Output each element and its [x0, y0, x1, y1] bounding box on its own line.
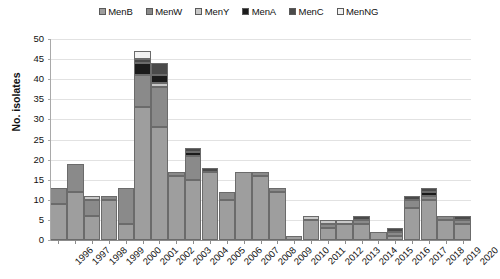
bar-segment-meny[interactable] [84, 196, 101, 200]
bar-segment-menb[interactable] [185, 180, 202, 240]
bar-group[interactable] [404, 39, 421, 240]
bar-segment-menw[interactable] [252, 172, 269, 176]
x-tick-mark [193, 241, 194, 244]
bar-segment-menw[interactable] [67, 164, 84, 192]
bar-group[interactable] [101, 39, 118, 240]
x-tick-label: 2020 [478, 245, 500, 267]
bar-segment-menc[interactable] [134, 59, 151, 63]
bar-segment-menc[interactable] [454, 216, 471, 220]
bar-group[interactable] [134, 39, 151, 240]
bar-segment-menc[interactable] [202, 168, 219, 172]
bar-segment-menb[interactable] [437, 220, 454, 240]
bar-segment-menb[interactable] [303, 220, 320, 240]
bar-group[interactable] [387, 39, 404, 240]
bar-segment-mena[interactable] [421, 192, 438, 196]
bar-segment-menw[interactable] [404, 200, 421, 208]
legend-swatch-icon [195, 8, 202, 15]
bar-group[interactable] [303, 39, 320, 240]
plot-area [50, 39, 471, 240]
x-tick-mark [294, 241, 295, 244]
bar-group[interactable] [168, 39, 185, 240]
bar-segment-meny[interactable] [151, 83, 168, 87]
bar-group[interactable] [202, 39, 219, 240]
bar-segment-menb[interactable] [202, 172, 219, 240]
bar-segment-menb[interactable] [67, 192, 84, 240]
bar-group[interactable] [185, 39, 202, 240]
bar-segment-menw[interactable] [185, 156, 202, 180]
bar-group[interactable] [235, 39, 252, 240]
bar-group[interactable] [454, 39, 471, 240]
bar-group[interactable] [421, 39, 438, 240]
bar-group[interactable] [286, 39, 303, 240]
bar-group[interactable] [269, 39, 286, 240]
bar-segment-menb[interactable] [101, 200, 118, 240]
bar-segment-menb[interactable] [219, 200, 236, 240]
bar-segment-menw[interactable] [50, 188, 67, 204]
legend-item-menc[interactable]: MenC [289, 7, 323, 17]
bar-segment-menw[interactable] [421, 196, 438, 200]
bar-segment-meny[interactable] [320, 220, 337, 224]
legend-item-menng[interactable]: MenNG [337, 7, 379, 17]
bar-segment-menw[interactable] [269, 188, 286, 192]
bar-segment-menb[interactable] [50, 204, 67, 240]
bar-segment-menw[interactable] [134, 75, 151, 107]
bar-segment-menw[interactable] [437, 216, 454, 220]
bar-segment-menc[interactable] [387, 228, 404, 232]
bar-group[interactable] [252, 39, 269, 240]
bar-segment-menw[interactable] [168, 172, 185, 176]
bar-segment-menb[interactable] [336, 224, 353, 240]
bar-segment-menb[interactable] [353, 224, 370, 240]
bar-segment-menc[interactable] [353, 216, 370, 220]
bar-segment-meny[interactable] [303, 216, 320, 220]
bar-segment-menb[interactable] [118, 224, 135, 240]
bar-segment-menc[interactable] [185, 148, 202, 152]
bar-segment-menw[interactable] [151, 87, 168, 127]
bar-segment-menw[interactable] [353, 220, 370, 224]
bar-segment-menc[interactable] [151, 63, 168, 75]
bar-group[interactable] [219, 39, 236, 240]
bar-segment-menb[interactable] [269, 192, 286, 240]
legend-item-menb[interactable]: MenB [99, 7, 133, 17]
bar-group[interactable] [67, 39, 84, 240]
bar-segment-menb[interactable] [235, 172, 252, 240]
bar-segment-menw[interactable] [101, 196, 118, 200]
bar-segment-menb[interactable] [421, 200, 438, 240]
bar-segment-mena[interactable] [151, 75, 168, 83]
bar-segment-menw[interactable] [387, 232, 404, 236]
bar-segment-menb[interactable] [84, 216, 101, 240]
bar-segment-meny[interactable] [336, 220, 353, 224]
bar-segment-menw[interactable] [219, 192, 236, 200]
y-tick-label: 35 [2, 94, 44, 104]
bar-segment-menb[interactable] [252, 176, 269, 240]
bar-segment-menb[interactable] [134, 107, 151, 240]
bar-segment-menc[interactable] [404, 196, 421, 200]
bar-group[interactable] [151, 39, 168, 240]
bar-segment-menw[interactable] [118, 188, 135, 224]
legend-item-menw[interactable]: MenW [146, 7, 183, 17]
bar-segment-menw[interactable] [84, 200, 101, 216]
bar-segment-menb[interactable] [370, 232, 387, 240]
legend-item-mena[interactable]: MenA [242, 7, 276, 17]
bar-group[interactable] [84, 39, 101, 240]
bar-segment-menb[interactable] [151, 127, 168, 240]
bar-segment-mena[interactable] [134, 63, 151, 75]
bar-segment-menc[interactable] [421, 188, 438, 192]
bar-group[interactable] [50, 39, 67, 240]
bar-group[interactable] [320, 39, 337, 240]
bar-segment-menb[interactable] [320, 228, 337, 240]
bar-group[interactable] [118, 39, 135, 240]
legend-item-label: MenC [299, 7, 324, 17]
bar-segment-mena[interactable] [185, 152, 202, 156]
bar-segment-menng[interactable] [134, 51, 151, 59]
bar-segment-menb[interactable] [404, 208, 421, 240]
legend-swatch-icon [146, 8, 153, 15]
bar-group[interactable] [353, 39, 370, 240]
bar-segment-menb[interactable] [168, 176, 185, 240]
bar-segment-menb[interactable] [454, 224, 471, 240]
bar-segment-menw[interactable] [454, 220, 471, 224]
bar-segment-menw[interactable] [320, 224, 337, 228]
bar-group[interactable] [437, 39, 454, 240]
legend-item-meny[interactable]: MenY [195, 7, 229, 17]
bar-group[interactable] [336, 39, 353, 240]
bar-group[interactable] [370, 39, 387, 240]
